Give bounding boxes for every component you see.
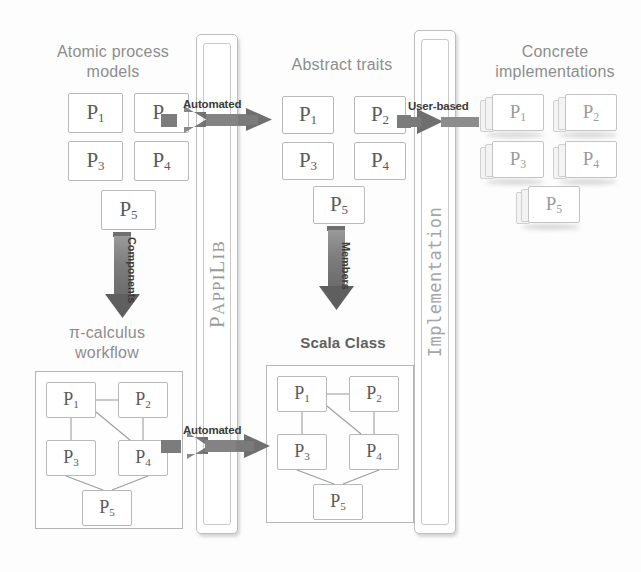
stack-card-front: P5 bbox=[528, 186, 580, 223]
arrow-label-user-based: User-based bbox=[408, 100, 469, 112]
pillar-label-implementation: Implementation bbox=[425, 207, 445, 357]
stack-shadow bbox=[559, 179, 617, 185]
process-label-p5: P5 bbox=[99, 498, 115, 518]
stack-shadow bbox=[486, 179, 544, 185]
stack-shadow bbox=[486, 132, 544, 138]
stack-card-front: P2 bbox=[565, 94, 617, 131]
process-label-p5: P5 bbox=[546, 193, 562, 217]
workflow-box-p2: P2 bbox=[118, 382, 168, 418]
process-label-p1: P1 bbox=[63, 390, 79, 410]
abstract-trait-box-p1: P1 bbox=[282, 96, 334, 134]
atomic-process-box-p1: P1 bbox=[68, 93, 123, 133]
process-label-p3: P3 bbox=[294, 442, 310, 462]
arrow-label-members: Members bbox=[340, 242, 352, 290]
heading-abstract-traits: Abstract traits bbox=[262, 55, 422, 75]
process-label-p1: P1 bbox=[86, 102, 104, 124]
process-label-p1: P1 bbox=[294, 384, 310, 404]
concrete-implementation-p2: P2 bbox=[553, 94, 623, 138]
scala-box-p4: P4 bbox=[349, 434, 399, 470]
process-label-p4: P4 bbox=[152, 150, 170, 172]
concrete-implementation-p4: P4 bbox=[553, 141, 623, 185]
process-label-p3: P3 bbox=[510, 148, 526, 172]
heading-atomic-process-models: Atomic process models bbox=[28, 42, 198, 82]
workflow-box-p4: P4 bbox=[118, 440, 168, 476]
stack-card-front: P1 bbox=[492, 94, 544, 131]
process-label-p3: P3 bbox=[299, 150, 317, 172]
atomic-process-box-p5: P5 bbox=[101, 190, 156, 230]
process-label-p2: P2 bbox=[152, 102, 170, 124]
process-label-p1: P1 bbox=[299, 104, 317, 126]
heading-concrete-implementations: Concrete implementations bbox=[470, 42, 640, 82]
abstract-trait-box-p2: P2 bbox=[354, 96, 406, 134]
scala-box-p2: P2 bbox=[349, 376, 399, 412]
concrete-implementation-p5: P5 bbox=[516, 186, 586, 230]
stack-card-front: P3 bbox=[492, 141, 544, 178]
workflow-box-p1: P1 bbox=[46, 382, 96, 418]
scala-box-p1: P1 bbox=[277, 376, 327, 412]
process-label-p1: P1 bbox=[510, 101, 526, 125]
arrow-label-bottom-automated: Automated bbox=[183, 424, 241, 436]
abstract-trait-box-p3: P3 bbox=[282, 142, 334, 180]
stack-shadow bbox=[522, 224, 580, 230]
arrow-label-top-automated: Automated bbox=[183, 98, 241, 110]
atomic-process-box-p4: P4 bbox=[134, 141, 189, 181]
heading-scala-class: Scala Class bbox=[268, 333, 418, 353]
stack-shadow bbox=[559, 132, 617, 138]
concrete-implementation-p3: P3 bbox=[480, 141, 550, 185]
process-label-p5: P5 bbox=[330, 194, 348, 216]
heading-pi-calculus-workflow: π-calculus workflow bbox=[26, 323, 188, 363]
scala-box-p5: P5 bbox=[313, 484, 363, 520]
scala-box-p3: P3 bbox=[277, 434, 327, 470]
stack-card-front: P4 bbox=[565, 141, 617, 178]
process-label-p3: P3 bbox=[86, 150, 104, 172]
concrete-implementation-p1: P1 bbox=[480, 94, 550, 138]
process-label-p2: P2 bbox=[583, 101, 599, 125]
abstract-trait-box-p4: P4 bbox=[354, 142, 406, 180]
process-label-p4: P4 bbox=[583, 148, 599, 172]
process-label-p4: P4 bbox=[366, 442, 382, 462]
process-label-p5: P5 bbox=[330, 492, 346, 512]
process-label-p2: P2 bbox=[366, 384, 382, 404]
process-label-p4: P4 bbox=[135, 448, 151, 468]
process-label-p2: P2 bbox=[371, 104, 389, 126]
process-label-p3: P3 bbox=[63, 448, 79, 468]
atomic-process-box-p3: P3 bbox=[68, 141, 123, 181]
diagram-canvas: Atomic process models Abstract traits Co… bbox=[0, 0, 641, 572]
workflow-box-p3: P3 bbox=[46, 440, 96, 476]
process-label-p2: P2 bbox=[135, 390, 151, 410]
workflow-box-p5: P5 bbox=[82, 490, 132, 526]
arrow-label-components: Components bbox=[126, 237, 138, 303]
abstract-trait-box-p5: P5 bbox=[313, 186, 365, 224]
process-label-p4: P4 bbox=[371, 150, 389, 172]
pillar-label-pappilib: PAPPILIB bbox=[205, 240, 230, 328]
atomic-process-box-p2: P2 bbox=[134, 93, 189, 133]
process-label-p5: P5 bbox=[119, 199, 137, 221]
